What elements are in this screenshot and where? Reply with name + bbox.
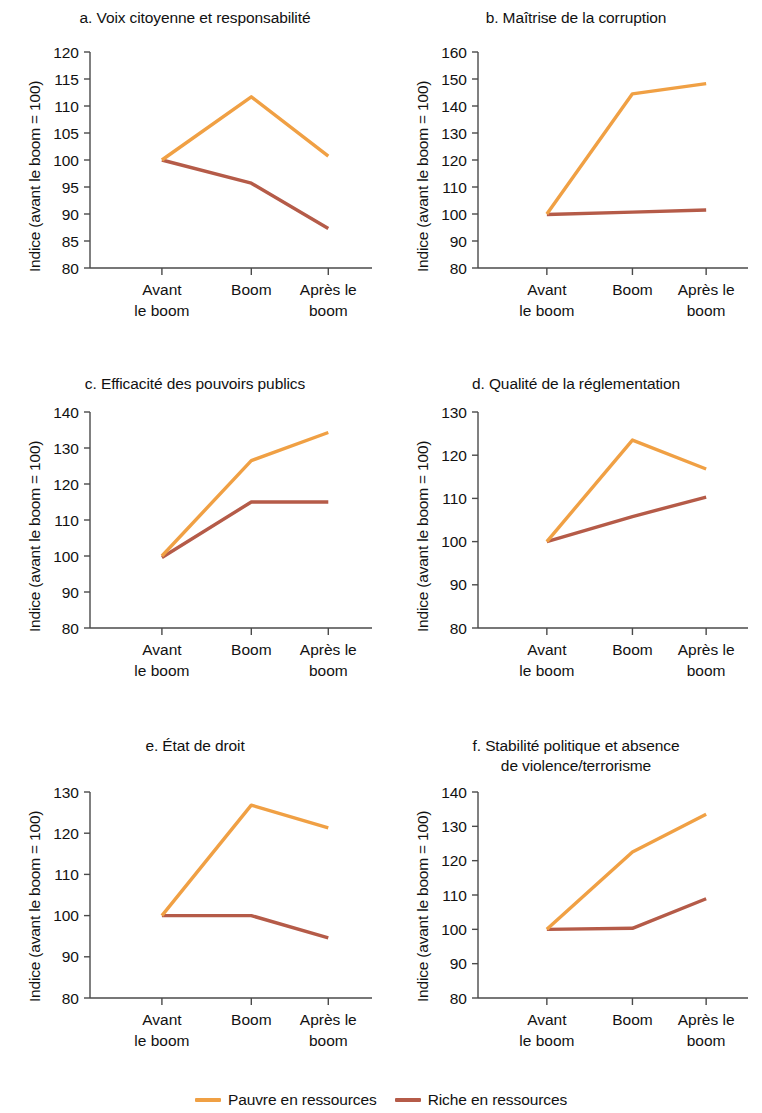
x-tick-label: boom xyxy=(687,662,726,679)
x-tick-label: boom xyxy=(309,662,348,679)
series-line-riche-en-ressources xyxy=(162,160,328,229)
x-tick-label: Après le xyxy=(300,641,357,658)
y-tick-label: 85 xyxy=(62,233,79,250)
y-tick-label: 130 xyxy=(53,784,79,801)
x-tick-label: boom xyxy=(687,302,726,319)
chart-panel-b: b. Maîtrise de la corruptionIndice (avan… xyxy=(390,0,762,360)
x-tick-label: Avant xyxy=(527,1011,567,1028)
y-tick-label: 90 xyxy=(62,948,80,965)
series-line-pauvre-en-ressources xyxy=(547,440,706,542)
x-tick-label: Avant xyxy=(142,641,182,658)
y-tick-label: 80 xyxy=(62,260,80,277)
y-tick-label: 140 xyxy=(441,98,467,115)
legend-item-1: Riche en ressources xyxy=(395,1091,567,1109)
x-tick-label: Boom xyxy=(231,1011,272,1028)
y-tick-label: 120 xyxy=(441,447,467,464)
series-line-riche-en-ressources xyxy=(162,916,328,938)
chart-panel-f: f. Stabilité politique et absencede viol… xyxy=(390,730,762,1075)
x-tick-label: Après le xyxy=(678,641,735,658)
legend-swatch-icon xyxy=(195,1098,221,1102)
y-tick-label: 120 xyxy=(441,852,467,869)
series-line-pauvre-en-ressources xyxy=(547,84,706,214)
x-tick-label: le boom xyxy=(134,662,189,679)
x-tick-label: Après le xyxy=(678,281,735,298)
y-tick-label: 95 xyxy=(62,179,79,196)
plot-svg-d: 8090100110120130Avantle boomBoomAprès le… xyxy=(390,360,762,730)
y-tick-label: 90 xyxy=(62,584,80,601)
y-tick-label: 120 xyxy=(53,476,79,493)
figure-root: a. Voix citoyenne et responsabilitéIndic… xyxy=(0,0,762,1113)
legend-swatch-icon xyxy=(395,1098,421,1102)
x-tick-label: le boom xyxy=(519,1032,574,1049)
x-tick-label: le boom xyxy=(519,662,574,679)
y-tick-label: 80 xyxy=(62,990,80,1007)
plot-area-b: Indice (avant le boom = 100)809010011012… xyxy=(390,0,762,360)
y-tick-label: 140 xyxy=(53,404,79,421)
x-tick-label: le boom xyxy=(519,302,574,319)
chart-panel-c: c. Efficacité des pouvoirs publicsIndice… xyxy=(0,360,390,730)
x-tick-label: Avant xyxy=(527,281,567,298)
y-tick-label: 130 xyxy=(441,404,467,421)
y-tick-label: 80 xyxy=(450,620,468,637)
x-tick-label: boom xyxy=(309,302,348,319)
plot-svg-a: 80859095100105110115120Avantle boomBoomA… xyxy=(0,0,390,360)
y-tick-label: 110 xyxy=(54,512,79,529)
x-tick-label: Avant xyxy=(142,1011,182,1028)
legend-label: Riche en ressources xyxy=(428,1091,567,1109)
panel-grid: a. Voix citoyenne et responsabilitéIndic… xyxy=(0,0,762,1075)
x-tick-label: le boom xyxy=(134,1032,189,1049)
y-tick-label: 90 xyxy=(62,206,80,223)
legend-label: Pauvre en ressources xyxy=(228,1091,377,1109)
y-tick-label: 90 xyxy=(450,233,468,250)
x-tick-label: Après le xyxy=(300,1011,357,1028)
y-tick-label: 100 xyxy=(53,548,79,565)
chart-panel-d: d. Qualité de la réglementationIndice (a… xyxy=(390,360,762,730)
plot-area-a: Indice (avant le boom = 100)808590951001… xyxy=(0,0,390,360)
y-tick-label: 140 xyxy=(441,784,467,801)
series-line-riche-en-ressources xyxy=(547,210,706,215)
plot-area-e: Indice (avant le boom = 100)809010011012… xyxy=(0,730,390,1075)
x-tick-label: Après le xyxy=(300,281,357,298)
plot-area-f: Indice (avant le boom = 100)809010011012… xyxy=(390,730,762,1075)
x-tick-label: le boom xyxy=(134,302,189,319)
y-tick-label: 90 xyxy=(450,955,468,972)
y-tick-label: 130 xyxy=(53,440,79,457)
x-tick-label: Boom xyxy=(612,641,653,658)
y-tick-label: 130 xyxy=(441,125,467,142)
series-line-riche-en-ressources xyxy=(547,497,706,541)
plot-svg-b: 8090100110120130140150160Avantle boomBoo… xyxy=(390,0,762,360)
y-tick-label: 100 xyxy=(441,921,467,938)
x-tick-label: Boom xyxy=(612,281,653,298)
plot-area-d: Indice (avant le boom = 100)809010011012… xyxy=(390,360,762,730)
plot-svg-c: 8090100110120130140Avantle boomBoomAprès… xyxy=(0,360,390,730)
x-tick-label: Boom xyxy=(231,641,272,658)
chart-panel-a: a. Voix citoyenne et responsabilitéIndic… xyxy=(0,0,390,360)
y-tick-label: 110 xyxy=(442,179,467,196)
series-line-riche-en-ressources xyxy=(547,899,706,930)
y-tick-label: 100 xyxy=(441,206,467,223)
y-tick-label: 120 xyxy=(53,825,79,842)
y-tick-label: 100 xyxy=(53,907,79,924)
y-tick-label: 80 xyxy=(450,260,468,277)
plot-area-c: Indice (avant le boom = 100)809010011012… xyxy=(0,360,390,730)
y-tick-label: 110 xyxy=(54,866,79,883)
y-tick-label: 150 xyxy=(441,71,467,88)
y-tick-label: 90 xyxy=(450,576,468,593)
y-tick-label: 100 xyxy=(53,152,79,169)
chart-panel-e: e. État de droitIndice (avant le boom = … xyxy=(0,730,390,1075)
plot-svg-f: 8090100110120130140Avantle boomBoomAprès… xyxy=(390,730,762,1075)
series-line-pauvre-en-ressources xyxy=(547,814,706,929)
x-tick-label: boom xyxy=(687,1032,726,1049)
y-tick-label: 120 xyxy=(441,152,467,169)
y-tick-label: 100 xyxy=(441,533,467,550)
x-tick-label: Boom xyxy=(231,281,272,298)
y-tick-label: 110 xyxy=(54,98,79,115)
x-tick-label: boom xyxy=(309,1032,348,1049)
y-tick-label: 130 xyxy=(441,818,467,835)
y-tick-label: 105 xyxy=(53,125,79,142)
x-tick-label: Boom xyxy=(612,1011,653,1028)
series-line-pauvre-en-ressources xyxy=(162,97,328,160)
x-tick-label: Après le xyxy=(678,1011,735,1028)
y-tick-label: 110 xyxy=(442,490,467,507)
y-tick-label: 80 xyxy=(62,620,80,637)
